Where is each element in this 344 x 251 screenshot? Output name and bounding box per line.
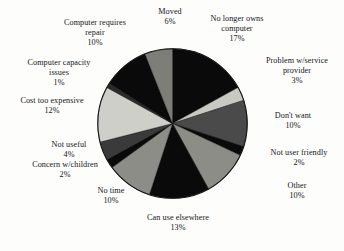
callout-percent: 12% xyxy=(9,106,95,116)
callout-percent: 1% xyxy=(18,78,100,88)
callout-not-useful: Not useful 4% xyxy=(40,140,98,160)
pie-chart-area xyxy=(97,48,248,199)
callout-computer-capacity-issues: Computer capacityissues 1% xyxy=(18,58,100,88)
callout-label: Not useful xyxy=(40,140,98,150)
callout-percent: 10% xyxy=(84,196,138,206)
callout-dont-want: Don't want 10% xyxy=(262,111,324,131)
callout-percent: 2% xyxy=(258,158,340,168)
callout-percent: 6% xyxy=(144,17,196,27)
callout-percent: 10% xyxy=(276,191,318,201)
callout-label: No time xyxy=(84,186,138,196)
callout-percent: 10% xyxy=(262,121,324,131)
callout-percent: 13% xyxy=(132,223,224,233)
callout-percent: 2% xyxy=(17,170,113,180)
callout-can-use-elsewhere: Can use elsewhere 13% xyxy=(132,213,224,233)
callout-other: Other 10% xyxy=(276,181,318,201)
callout-label: Don't want xyxy=(262,111,324,121)
callout-label: Computer capacityissues xyxy=(18,58,100,78)
callout-problem-with-service-provider: Problem w/serviceprovider 3% xyxy=(253,56,341,86)
callout-label: No longer ownscomputer xyxy=(198,14,276,34)
callout-label: Other xyxy=(276,181,318,191)
callout-label: Computer requiresrepair xyxy=(54,18,136,38)
callout-moved: Moved 6% xyxy=(144,7,196,27)
callout-percent: 17% xyxy=(198,34,276,44)
pie-svg xyxy=(97,48,248,199)
callout-percent: 10% xyxy=(54,38,136,48)
callout-label: Concern w/children xyxy=(17,160,113,170)
callout-label: Problem w/serviceprovider xyxy=(253,56,341,76)
callout-percent: 4% xyxy=(40,150,98,160)
callout-not-user-friendly: Not user friendly 2% xyxy=(258,148,340,168)
callout-label: Moved xyxy=(144,7,196,17)
pie-slice-group xyxy=(98,49,247,198)
callout-no-longer-owns-computer: No longer ownscomputer 17% xyxy=(198,14,276,44)
callout-percent: 3% xyxy=(253,76,341,86)
callout-label: Cost too expensive xyxy=(9,96,95,106)
callout-computer-requires-repair: Computer requiresrepair 10% xyxy=(54,18,136,48)
pie-chart-figure: Moved 6% No longer ownscomputer 17% Prob… xyxy=(0,0,344,251)
callout-cost-too-expensive: Cost too expensive 12% xyxy=(9,96,95,116)
callout-label: Can use elsewhere xyxy=(132,213,224,223)
callout-concern-with-children: Concern w/children 2% xyxy=(17,160,113,180)
callout-label: Not user friendly xyxy=(258,148,340,158)
callout-no-time: No time 10% xyxy=(84,186,138,206)
